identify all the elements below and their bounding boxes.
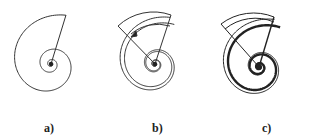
spiral-b-diagram: [100, 0, 210, 139]
outer-arc: [118, 12, 171, 26]
label-b: b): [152, 121, 163, 136]
radial-line: [51, 15, 66, 64]
spiral-center: [49, 62, 53, 66]
spiral-curve: [228, 25, 280, 90]
label-a: a): [44, 121, 54, 136]
spiral-c-diagram: [205, 0, 319, 139]
inner-arc: [225, 18, 274, 29]
spiral-a-diagram: [0, 0, 110, 139]
spiral-center: [153, 62, 157, 66]
spiral-curve: [125, 23, 175, 87]
panel-c: [205, 0, 319, 139]
spiral-center: [256, 64, 262, 70]
spiral-curve: [120, 17, 174, 90]
panel-a: [0, 0, 110, 139]
label-c: c): [262, 121, 271, 136]
panel-b: [100, 0, 210, 139]
